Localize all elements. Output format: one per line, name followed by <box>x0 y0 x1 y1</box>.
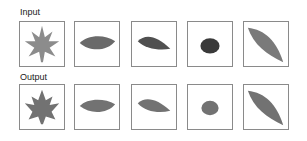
output-row-label: Output <box>20 72 47 82</box>
round-blob-icon <box>188 85 232 129</box>
output-panel-2 <box>74 84 120 130</box>
maple-leaf-icon <box>20 22 64 66</box>
output-panel-4 <box>187 84 233 130</box>
round-blob-icon <box>188 22 232 66</box>
input-panel-2 <box>74 21 120 67</box>
input-panel-3 <box>131 21 177 67</box>
output-panel-3 <box>131 84 177 130</box>
output-panel-1 <box>19 84 65 130</box>
input-panel-4 <box>187 21 233 67</box>
output-panel-5 <box>243 84 289 130</box>
input-row-label: Input <box>20 7 40 17</box>
long-leaf-icon <box>244 85 288 129</box>
input-panel-1 <box>19 21 65 67</box>
tilted-leaf-icon <box>132 22 176 66</box>
tilted-leaf-icon <box>132 85 176 129</box>
maple-leaf-icon <box>20 85 64 129</box>
input-panel-5 <box>243 21 289 67</box>
oval-leaf-icon <box>75 22 119 66</box>
oval-leaf-icon <box>75 85 119 129</box>
long-leaf-icon <box>244 22 288 66</box>
